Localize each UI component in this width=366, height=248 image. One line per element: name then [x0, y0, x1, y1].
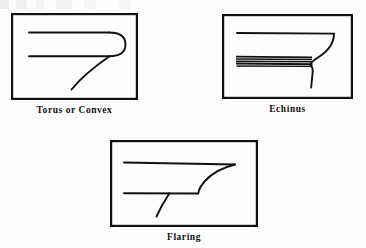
- torus-caption: Torus or Convex: [11, 105, 138, 115]
- echinus-band-line-4: [236, 64, 313, 65]
- figure-torus-or-convex: Torus or Convex: [11, 13, 138, 100]
- flaring-profile-drawing: [110, 140, 258, 227]
- echinus-band-line-2: [236, 59, 312, 60]
- flaring-frame-border: [111, 141, 257, 226]
- flaring-upper-line: [124, 163, 235, 165]
- echinus-profile-drawing: [222, 14, 353, 99]
- echinus-lower-shaft: [311, 65, 313, 88]
- flaring-flare-curve: [198, 165, 235, 194]
- echinus-ovolo-curve: [311, 34, 334, 65]
- echinus-caption: Echinus: [222, 104, 353, 114]
- flaring-caption: Flaring: [110, 232, 258, 242]
- scan-artifact: [0, 0, 366, 9]
- flaring-descending-tail: [157, 193, 170, 216]
- figure-echinus: Echinus: [222, 14, 353, 99]
- echinus-band-line-3: [236, 61, 312, 62]
- echinus-fillet-band: [236, 57, 313, 67]
- echinus-band-line-1: [236, 57, 312, 58]
- figure-flaring: Flaring: [110, 140, 258, 227]
- torus-convex-cap: [109, 33, 126, 57]
- torus-descending-tail: [72, 56, 110, 89]
- echinus-top-line: [237, 33, 334, 34]
- torus-profile-drawing: [11, 13, 138, 100]
